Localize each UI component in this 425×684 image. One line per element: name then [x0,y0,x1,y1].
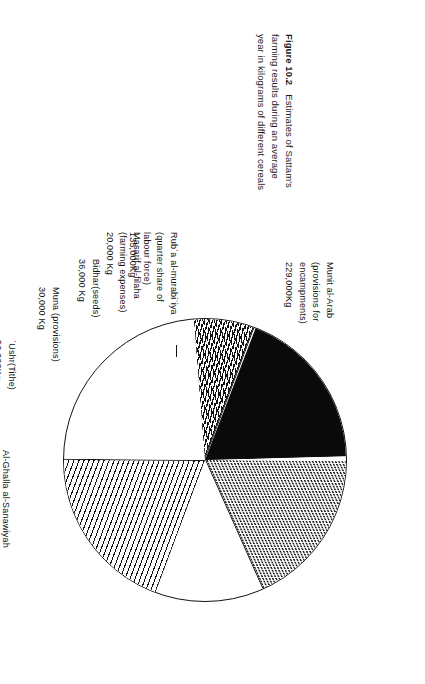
leader-line-masarif [176,345,177,357]
label-al-ghalla-al-sanawiyah: Al-Ghalla al-Sanawiyah al-Safiyah (net y… [0,450,12,548]
pie-slice-al-ghalla-al-sanawiyah[interactable] [63,459,205,601]
figure-caption: Figure 10.2Estimates of Sattam's farming… [255,34,296,194]
label-ushr-tithe: ʿUshr(Tithe) 50,000Kg [0,340,18,390]
label-muna-provisions: Muna (provisions) 30,000 Kg [35,287,62,362]
pie-chart [63,318,347,602]
pie-slice-ruba-al-murabiiya[interactable] [201,318,346,460]
label-bidhar-seeds: Bidhar(seeds) 36,000 Kg [75,259,102,318]
pie-disc [63,318,347,602]
label-ruba-al-murabiiya: Rubʿa al-murabiʿiya (quarter share of la… [126,232,180,315]
label-munit-al-arab: Munit al-Arab (provisions for encampment… [282,262,336,324]
figure-canvas: Figure 10.2Estimates of Sattam's farming… [0,0,425,684]
figure-number: Figure 10.2 [284,34,295,85]
